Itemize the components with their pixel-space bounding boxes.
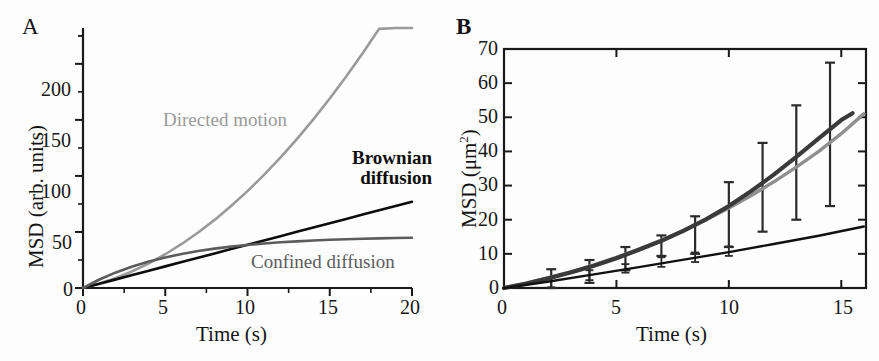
panel-b-curve-lower-linear	[504, 227, 864, 288]
panel-a-label-confined-diffusion: Confined diffusion	[251, 252, 395, 272]
panel-b-xtick-0: 0	[497, 296, 507, 319]
panel-a-xtick-15: 15	[318, 296, 338, 319]
panel-a-xtick-10: 10	[235, 296, 255, 319]
panel-b-ytick-10: 10	[478, 242, 498, 265]
figure-container: A 200 150 100 50 0 0 5 10 15 20 Time (s)…	[0, 0, 879, 361]
panel-b-xtick-15: 15	[833, 296, 853, 319]
panel-b-errorbar-upper-5	[724, 182, 734, 247]
panel-b-ylabel: MSD (μm2)	[456, 129, 482, 228]
panel-a-ylabel: MSD (arb. units)	[24, 125, 49, 268]
panel-a-label-directed-motion: Directed motion	[163, 110, 287, 130]
panel-b-ylabel-main: MSD (	[457, 170, 481, 228]
panel-b-ylabel-superscript: 2	[456, 136, 471, 143]
panel-b-errorbar-upper-7	[791, 105, 801, 219]
panel-b-ytick-70: 70	[478, 37, 498, 60]
panel-b-curve-fit	[504, 114, 864, 288]
panel-b: B 70 60 50 40 30 20 10 0 0 5 10 15 Time …	[440, 0, 879, 361]
panel-b-errorbar-upper-2	[620, 247, 630, 270]
panel-a-ytick-0: 0	[63, 278, 73, 301]
panel-b-xtick-10: 10	[719, 296, 739, 319]
panel-b-xtick-5: 5	[611, 296, 621, 319]
panel-b-ylabel-unit: μm	[457, 143, 481, 171]
panel-a: A 200 150 100 50 0 0 5 10 15 20 Time (s)…	[0, 0, 440, 361]
panel-a-label-brownian-line2: diffusion	[320, 168, 432, 188]
panel-a-ytick-200: 200	[41, 78, 71, 101]
panel-b-xlabel: Time (s)	[636, 322, 707, 347]
panel-a-xtick-0: 0	[76, 296, 86, 319]
panel-a-ytick-50: 50	[52, 231, 72, 254]
panel-a-xtick-5: 5	[158, 296, 168, 319]
panel-a-xlabel: Time (s)	[196, 322, 267, 347]
panel-a-label-brownian-line1: Brownian	[320, 148, 432, 168]
panel-b-ytick-50: 50	[478, 105, 498, 128]
panel-a-label-brownian-diffusion: Brownian diffusion	[320, 148, 432, 188]
panel-a-xtick-20: 20	[400, 296, 420, 319]
panel-b-axes-frame	[504, 49, 866, 288]
panel-b-ytick-60: 60	[478, 71, 498, 94]
panel-b-ylabel-close: )	[457, 129, 481, 136]
